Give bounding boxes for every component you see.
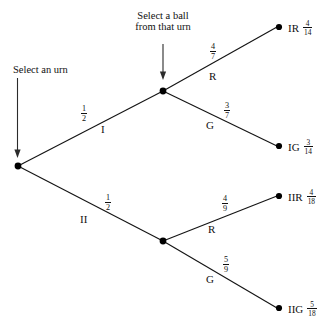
prob-urn-II: 1 2 <box>105 193 111 213</box>
node-root <box>15 163 22 170</box>
outcome-IR: IR 4 14 <box>288 20 312 37</box>
fraction-denominator: 18 <box>307 310 316 318</box>
outcome-IG-label: IG <box>288 142 300 154</box>
prob-I-red: 4 7 <box>210 42 216 62</box>
fraction-denominator: 14 <box>303 29 312 37</box>
annotation-select-urn-line1: Select an urn <box>13 64 68 75</box>
fraction-5-18: 5 18 <box>307 301 316 318</box>
fraction-4-7: 4 7 <box>210 43 216 62</box>
branch-letter-urn-I: I <box>101 124 105 136</box>
node-urn-II <box>160 238 167 245</box>
edge-root-to-urn-I <box>18 91 163 166</box>
prob-I-green: 3 7 <box>224 101 230 121</box>
node-urn-I <box>160 88 167 95</box>
select-urn-arrow <box>14 78 20 158</box>
outcome-IR-label: IR <box>288 23 299 35</box>
fraction-4-14: 4 14 <box>303 20 312 37</box>
node-leaf-IG <box>276 143 282 149</box>
node-leaf-IIR <box>276 193 282 199</box>
fraction-numerator: 4 <box>307 189 316 197</box>
branch-letter-I-red: R <box>209 71 216 83</box>
annotation-select-ball-line2: from that urn <box>110 21 216 32</box>
fraction-numerator: 5 <box>307 301 316 309</box>
outcome-IG: IG 3 14 <box>288 139 313 156</box>
probability-tree-diagram: Select a ball from that urn Select an ur… <box>0 0 335 326</box>
fraction-3-14: 3 14 <box>304 139 313 156</box>
fraction-4-18: 4 18 <box>307 189 316 206</box>
fraction-denominator: 2 <box>105 204 111 212</box>
prob-II-green: 5 9 <box>223 255 229 275</box>
prob-II-red: 4 9 <box>222 194 228 214</box>
fraction-denominator: 9 <box>222 205 228 213</box>
edge-urn-I-to-IR <box>163 27 277 91</box>
fraction-denominator: 2 <box>81 115 87 123</box>
edge-urn-I-to-IG <box>163 91 277 146</box>
fraction-numerator: 4 <box>210 43 216 51</box>
fraction-denominator: 9 <box>223 266 229 274</box>
annotation-select-ball: Select a ball from that urn <box>110 10 216 33</box>
node-leaf-IR <box>276 24 282 30</box>
fraction-4-9: 4 9 <box>222 195 228 214</box>
annotation-select-urn: Select an urn <box>13 64 68 75</box>
outcome-IIG: IIG 5 18 <box>288 301 317 318</box>
fraction-numerator: 1 <box>81 105 87 113</box>
fraction-denominator: 14 <box>304 148 313 156</box>
fraction-numerator: 4 <box>222 195 228 203</box>
branch-letter-urn-II: II <box>80 214 87 226</box>
fraction-numerator: 5 <box>223 256 229 264</box>
fraction-denominator: 18 <box>307 198 316 206</box>
fraction-numerator: 3 <box>304 139 313 147</box>
tree-graphics <box>0 0 335 326</box>
select-ball-arrow <box>160 44 166 80</box>
branch-letter-II-red: R <box>208 224 215 236</box>
fraction-1-2-upper: 1 2 <box>81 105 87 124</box>
fraction-numerator: 4 <box>303 20 312 28</box>
outcome-IIG-label: IIG <box>288 304 303 316</box>
branch-letter-I-green: G <box>206 120 214 132</box>
prob-urn-I: 1 2 <box>81 104 87 124</box>
fraction-5-9: 5 9 <box>223 256 229 275</box>
edge-urn-II-to-IIG <box>163 241 277 308</box>
edge-urn-II-to-IIR <box>163 196 277 241</box>
fraction-1-2-lower: 1 2 <box>105 194 111 213</box>
fraction-numerator: 3 <box>224 102 230 110</box>
fraction-denominator: 7 <box>224 112 230 120</box>
fraction-3-7: 3 7 <box>224 102 230 121</box>
fraction-numerator: 1 <box>105 194 111 202</box>
outcome-IIR-label: IIR <box>288 192 303 204</box>
fraction-denominator: 7 <box>210 53 216 61</box>
branch-letter-II-green: G <box>206 274 214 286</box>
annotation-select-ball-line1: Select a ball <box>110 10 216 21</box>
node-leaf-IIG <box>276 305 282 311</box>
edge-root-to-urn-II <box>18 166 163 241</box>
outcome-IIR: IIR 4 18 <box>288 189 316 206</box>
